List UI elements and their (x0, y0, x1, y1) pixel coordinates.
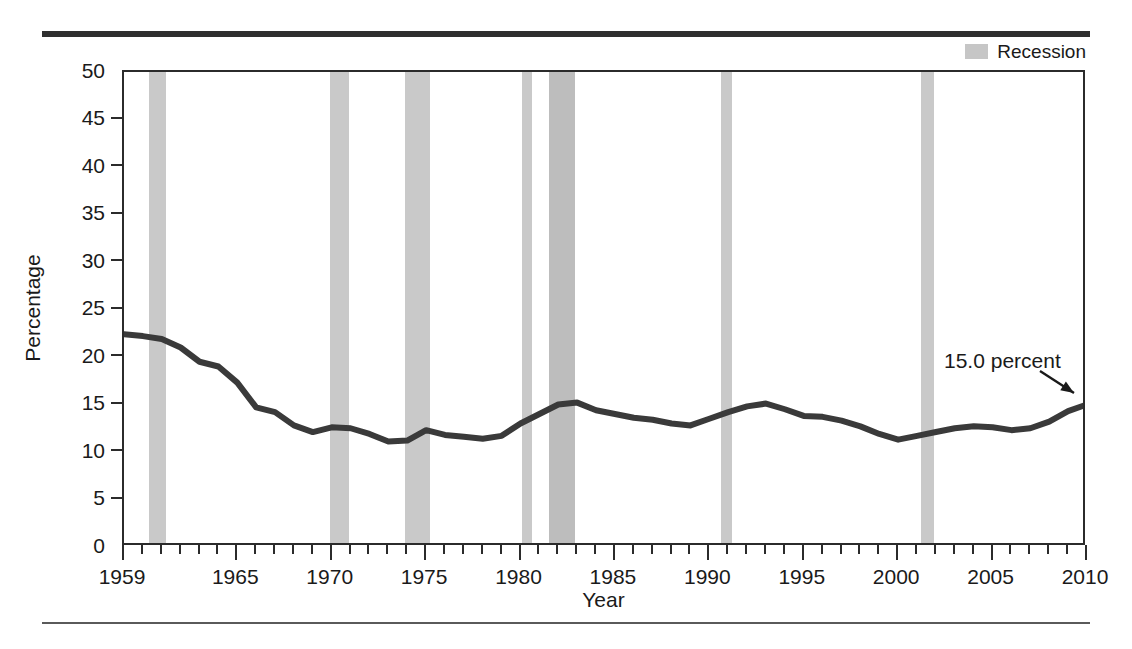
x-tick-label: 1965 (212, 565, 259, 589)
x-tick-major (707, 545, 709, 560)
x-tick-minor (783, 545, 785, 554)
y-tick-label: 15 (82, 392, 111, 413)
x-tick-minor (1066, 545, 1068, 554)
x-tick-major (122, 545, 124, 560)
x-tick-label: 1995 (778, 565, 825, 589)
y-tick-label: 20 (82, 344, 111, 365)
x-tick-minor (1047, 545, 1049, 554)
x-tick-minor (858, 545, 860, 554)
x-tick-minor (216, 545, 218, 554)
y-tick-mark (111, 402, 122, 404)
y-tick-mark (111, 307, 122, 309)
x-tick-minor (651, 545, 653, 554)
x-tick-major (519, 545, 521, 560)
legend-label-recession: Recession (997, 42, 1086, 61)
x-tick-major (991, 545, 993, 560)
x-tick-label: 2005 (967, 565, 1014, 589)
x-tick-minor (632, 545, 634, 554)
x-tick-label: 2000 (873, 565, 920, 589)
x-tick-minor (670, 545, 672, 554)
x-tick-minor (292, 545, 294, 554)
y-tick-mark (111, 259, 122, 261)
y-tick-label: 45 (82, 107, 111, 128)
y-tick-mark (111, 212, 122, 214)
x-tick-minor (198, 545, 200, 554)
x-tick-label: 1985 (590, 565, 637, 589)
y-tick-mark (111, 497, 122, 499)
bottom-rule (42, 622, 1090, 624)
x-tick-label: 1975 (401, 565, 448, 589)
x-tick-minor (141, 545, 143, 554)
x-tick-minor (594, 545, 596, 554)
x-tick-minor (367, 545, 369, 554)
x-axis-title: Year (122, 588, 1085, 612)
x-tick-major (1085, 545, 1087, 560)
x-tick-major (613, 545, 615, 560)
x-tick-minor (556, 545, 558, 554)
y-tick-mark (111, 164, 122, 166)
y-tick-label: 30 (82, 249, 111, 270)
x-tick-minor (405, 545, 407, 554)
y-tick-mark (111, 354, 122, 356)
x-tick-minor (745, 545, 747, 554)
y-tick-mark (111, 449, 122, 451)
y-tick-label: 40 (82, 154, 111, 175)
x-tick-label: 1980 (495, 565, 542, 589)
y-tick-label: 5 (93, 487, 111, 508)
x-tick-minor (386, 545, 388, 554)
x-tick-minor (179, 545, 181, 554)
endpoint-annotation: 15.0 percent (944, 349, 1061, 373)
x-tick-label: 2010 (1062, 565, 1109, 589)
top-rule (42, 31, 1090, 37)
x-tick-minor (688, 545, 690, 554)
x-tick-minor (1009, 545, 1011, 554)
x-tick-major (235, 545, 237, 560)
x-tick-minor (273, 545, 275, 554)
x-tick-minor (481, 545, 483, 554)
plot-inner (124, 72, 1083, 543)
x-tick-minor (462, 545, 464, 554)
y-tick-label: 10 (82, 439, 111, 460)
x-tick-minor (840, 545, 842, 554)
x-tick-minor (764, 545, 766, 554)
x-tick-minor (160, 545, 162, 554)
x-tick-minor (254, 545, 256, 554)
x-tick-minor (1028, 545, 1030, 554)
y-tick-label: 25 (82, 297, 111, 318)
y-axis: 05101520253035404550 (0, 70, 122, 545)
x-tick-minor (934, 545, 936, 554)
chart-legend: Recession (965, 42, 1086, 61)
x-tick-minor (821, 545, 823, 554)
x-tick-minor (877, 545, 879, 554)
x-tick-minor (915, 545, 917, 554)
series-line-poverty-rate (124, 334, 1083, 441)
y-tick-label: 35 (82, 202, 111, 223)
x-tick-label: 1990 (684, 565, 731, 589)
x-tick-major (424, 545, 426, 560)
plot-area (122, 70, 1085, 545)
recession-swatch-icon (965, 44, 988, 59)
y-tick-label: 0 (93, 534, 111, 555)
x-tick-minor (972, 545, 974, 554)
x-tick-label: 1959 (99, 565, 146, 589)
x-tick-major (802, 545, 804, 560)
x-tick-major (896, 545, 898, 560)
figure-container: Recession Percentage 0510152025303540455… (0, 0, 1132, 649)
x-tick-label: 1970 (306, 565, 353, 589)
x-tick-minor (726, 545, 728, 554)
x-tick-minor (953, 545, 955, 554)
x-tick-minor (349, 545, 351, 554)
x-tick-minor (575, 545, 577, 554)
x-tick-minor (537, 545, 539, 554)
poverty-rate-line (124, 72, 1083, 543)
y-tick-mark (111, 117, 122, 119)
y-tick-label: 50 (82, 59, 111, 80)
x-tick-minor (500, 545, 502, 554)
x-tick-major (330, 545, 332, 560)
x-tick-minor (443, 545, 445, 554)
x-tick-minor (311, 545, 313, 554)
